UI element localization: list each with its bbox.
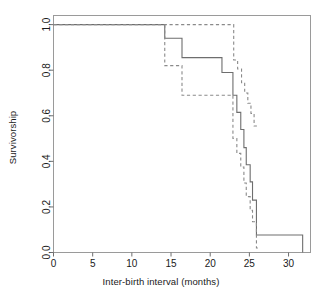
y-tick-label: 0.8 — [41, 63, 52, 77]
survivorship-chart: 0510152025300.00.20.40.60.81.0 Inter-bir… — [0, 0, 322, 303]
x-tick-label: 20 — [205, 258, 217, 269]
y-axis-title: Survivorship — [7, 93, 18, 183]
y-tick-label: 0.6 — [41, 108, 52, 122]
y-tick-label: 0.0 — [41, 245, 52, 259]
x-tick-label: 10 — [126, 258, 138, 269]
y-tick-label: 1.0 — [41, 17, 52, 31]
y-tick-label: 0.2 — [41, 200, 52, 214]
x-axis-title: Inter-birth interval (months) — [0, 276, 322, 287]
x-tick-label: 15 — [165, 258, 177, 269]
survivorship-curve — [54, 25, 303, 253]
confidence-band-curve — [54, 25, 259, 126]
y-tick-label: 0.4 — [41, 154, 52, 168]
plot-canvas: 0510152025300.00.20.40.60.81.0 — [0, 0, 322, 303]
x-tick-label: 25 — [244, 258, 256, 269]
x-tick-label: 30 — [283, 258, 295, 269]
x-tick-label: 5 — [90, 258, 96, 269]
